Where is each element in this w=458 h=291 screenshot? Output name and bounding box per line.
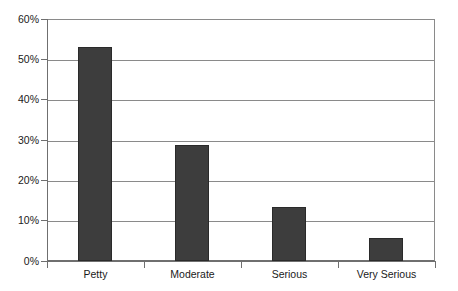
y-tick-40 (41, 99, 47, 100)
y-tick-30 (41, 140, 47, 141)
y-axis-label-60: 60% (3, 14, 39, 25)
x-tick-2 (241, 262, 242, 268)
bar-moderate (175, 145, 209, 261)
y-tick-10 (41, 220, 47, 221)
y-tick-20 (41, 180, 47, 181)
x-axis-label-moderate: Moderate (144, 269, 241, 280)
bar-petty (78, 47, 112, 261)
bar-chart: 60% 50% 40% 30% 20% 10% 0% Petty Moderat… (0, 0, 458, 291)
x-tick-0 (47, 262, 48, 268)
y-axis-label-10: 10% (3, 215, 39, 226)
y-axis-labels: 60% 50% 40% 30% 20% 10% 0% (0, 0, 39, 291)
y-axis-label-30: 30% (3, 135, 39, 146)
y-axis-line (47, 19, 48, 262)
y-axis-label-40: 40% (3, 94, 39, 105)
bar-serious (272, 207, 306, 261)
y-tick-50 (41, 59, 47, 60)
x-tick-4 (435, 262, 436, 268)
y-axis-label-0: 0% (3, 256, 39, 267)
x-tick-3 (338, 262, 339, 268)
y-axis-label-50: 50% (3, 54, 39, 65)
x-axis-label-serious: Serious (241, 269, 338, 280)
x-axis-label-petty: Petty (47, 269, 144, 280)
y-axis-label-20: 20% (3, 175, 39, 186)
x-axis-label-very-serious: Very Serious (338, 269, 435, 280)
bar-very-serious (369, 238, 403, 261)
x-tick-1 (144, 262, 145, 268)
y-tick-60 (41, 19, 47, 20)
